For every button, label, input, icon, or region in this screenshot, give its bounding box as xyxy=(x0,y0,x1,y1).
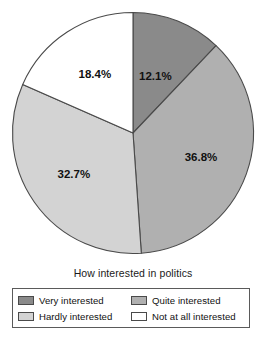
pie-slice-value-label: 36.8% xyxy=(185,151,218,163)
legend-label: Not at all interested xyxy=(152,311,236,322)
chart-caption: How interested in politics xyxy=(0,267,266,279)
legend-row: Very interested Quite interested xyxy=(18,292,244,308)
legend-item-very-interested[interactable]: Very interested xyxy=(18,295,131,306)
legend-swatch-icon xyxy=(131,296,147,305)
legend-swatch-icon xyxy=(18,296,34,305)
legend-swatch-icon xyxy=(18,312,34,321)
pie-slice-group xyxy=(12,12,253,253)
legend-swatch-icon xyxy=(131,312,147,321)
legend-item-hardly-interested[interactable]: Hardly interested xyxy=(18,311,131,322)
pie-slice-value-label: 32.7% xyxy=(58,168,91,180)
pie-chart-figure: 12.1%36.8%32.7%18.4% How interested in p… xyxy=(0,0,266,339)
pie-slice-value-label: 12.1% xyxy=(139,70,172,82)
legend-label: Quite interested xyxy=(152,295,221,306)
pie-plot-area: 12.1%36.8%32.7%18.4% xyxy=(0,0,266,268)
legend-label: Very interested xyxy=(39,295,104,306)
legend-row: Hardly interested Not at all interested xyxy=(18,308,244,324)
legend-item-not-at-all-interested[interactable]: Not at all interested xyxy=(131,311,244,322)
pie-slice-value-label: 18.4% xyxy=(79,68,112,80)
legend-item-quite-interested[interactable]: Quite interested xyxy=(131,295,244,306)
pie-svg: 12.1%36.8%32.7%18.4% xyxy=(0,0,266,268)
legend: Very interested Quite interested Hardly … xyxy=(12,288,250,328)
legend-label: Hardly interested xyxy=(39,311,112,322)
